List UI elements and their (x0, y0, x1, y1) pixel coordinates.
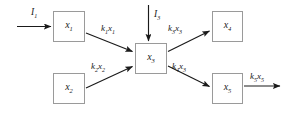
flow-diagram: x1 x2 x3 x4 x5 I1 I3 k1x1 k2x2 k3x3 (0, 0, 288, 113)
edge-label-k1x1: k1x1 (101, 24, 115, 35)
node-label-x3: x3 (147, 52, 155, 65)
edge-label-k5x5: k5x5 (250, 72, 264, 83)
node-box-x1: x1 (53, 11, 85, 42)
arrow-x1-to-x3 (86, 33, 133, 52)
input-label-i3: I3 (154, 10, 160, 21)
node-box-x4: x4 (212, 11, 243, 42)
node-box-x3: x3 (135, 43, 167, 74)
input-label-i1: I1 (31, 8, 37, 19)
node-label-x5: x5 (224, 82, 232, 95)
edge-label-k4x3: k4x3 (172, 62, 186, 73)
node-box-x2: x2 (53, 73, 85, 104)
node-label-x2: x2 (65, 82, 73, 95)
node-label-x4: x4 (224, 20, 232, 33)
edge-label-k2x2: k2x2 (91, 62, 105, 73)
node-box-x5: x5 (212, 73, 243, 104)
node-label-x1: x1 (65, 20, 73, 33)
edge-label-k3x3: k3x3 (168, 24, 182, 35)
